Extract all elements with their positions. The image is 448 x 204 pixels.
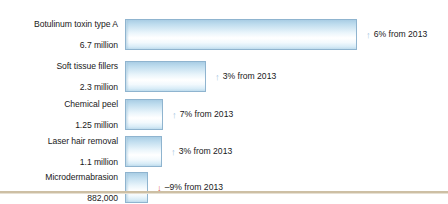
bar-container	[125, 172, 148, 203]
arrow-up-icon: ↑	[171, 147, 176, 156]
category-name: Microdermabrasion	[0, 172, 118, 183]
change-annotation: ↑ 3% from 2013	[215, 71, 276, 81]
category-value: 882,000	[0, 193, 118, 204]
change-annotation: ↑ 3% from 2013	[171, 146, 232, 156]
bar	[125, 172, 148, 203]
category-name: Botulinum toxin type A	[0, 19, 118, 30]
chart-row-microdermabrasion: Microdermabrasion 882,000 ↓ –9% from 201…	[0, 161, 448, 204]
bottom-rule-shadow	[0, 193, 448, 194]
change-annotation: ↑ 7% from 2013	[172, 109, 233, 119]
category-name: Soft tissue fillers	[0, 61, 118, 72]
bar-container	[125, 19, 357, 50]
change-annotation: ↑ 6% from 2013	[366, 29, 427, 39]
category-value: 6.7 million	[0, 40, 118, 51]
arrow-up-icon: ↑	[172, 110, 177, 119]
category-name: Laser hair removal	[0, 136, 118, 147]
change-text: 6% from 2013	[374, 29, 428, 39]
bar	[125, 19, 357, 50]
change-text: 3% from 2013	[223, 71, 277, 81]
change-text: 3% from 2013	[179, 146, 233, 156]
category-name: Chemical peel	[0, 99, 118, 110]
arrow-up-icon: ↑	[215, 72, 220, 81]
row-label-microdermabrasion: Microdermabrasion 882,000	[0, 161, 118, 204]
change-text: 7% from 2013	[180, 109, 234, 119]
horizontal-bar-chart: Botulinum toxin type A 6.7 million ↑ 6% …	[0, 0, 448, 204]
arrow-up-icon: ↑	[366, 30, 371, 39]
